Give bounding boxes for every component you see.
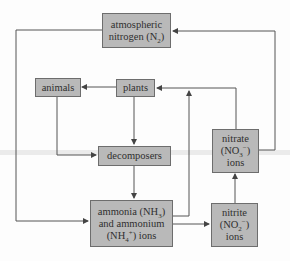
atmospheric-line2: nitrogen (N2) [109,31,165,43]
plants-label: plants [123,82,148,94]
nitrate-line3: ions [227,157,245,169]
node-nitrite: nitrite (NO2−) ions [211,203,258,247]
nitrogen-cycle-diagram: atmospheric nitrogen (N2) animals plants… [0,0,290,261]
node-atmospheric-nitrogen: atmospheric nitrogen (N2) [102,13,171,48]
nitrite-line3: ions [226,231,244,243]
node-animals: animals [35,78,81,97]
edge-nitrate-to-plants [157,88,236,129]
edge-atmospheric-to-ammonia [16,30,102,221]
animals-label: animals [42,82,75,94]
decomposers-label: decomposers [107,150,162,162]
edge-animals-to-decomposers [57,96,96,155]
node-nitrate: nitrate (NO3−) ions [212,129,259,173]
atmospheric-line1: atmospheric [111,19,162,31]
nitrate-line2: (NO3−) [221,145,251,157]
node-decomposers: decomposers [98,146,171,166]
nitrite-line2: (NO2−) [220,219,250,231]
ammonia-line3: (NH4+) ions [107,230,157,242]
ammonia-line1: ammonia (NH3) [98,206,165,218]
edge-ammonia-to-plants [172,91,189,216]
node-plants: plants [116,79,155,97]
node-ammonia-ammonium: ammonia (NH3) and ammonium (NH4+) ions [90,200,173,247]
